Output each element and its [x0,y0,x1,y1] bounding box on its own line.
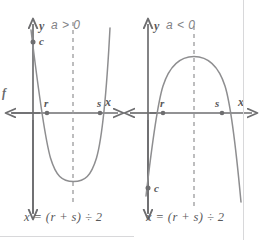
left-root-s-point [98,111,103,116]
right-axis-of-symmetry-equation: x = (r + s) ÷ 2 [146,211,224,224]
left-y-intercept-label: c [39,36,44,47]
right-condition-label: a < 0 [166,19,196,31]
left-y-intercept-point [31,40,36,45]
right-root-s-point [220,111,225,116]
left-root-r-label: r [44,98,48,109]
bottom-divider-left [0,236,134,237]
left-condition-label: a > 0 [51,19,81,31]
left-axis-of-symmetry-equation: x = (r + s) ÷ 2 [24,211,102,224]
right-root-r-point [161,111,166,116]
quadratic-graphs-figure: f y x a > 0 c r s x = (r + s) ÷ 2 y x a … [0,0,260,240]
left-x-axis-label: x [105,96,111,108]
right-y-axis-label: y [154,20,159,32]
left-root-r-point [45,111,50,116]
right-root-s-label: s [215,98,219,109]
left-y-axis-label: y [39,20,44,32]
left-panel-graph [11,22,118,214]
right-panel-graph [130,24,252,214]
right-edge-divider [243,0,244,240]
right-y-intercept-label: c [154,183,159,194]
left-root-s-label: s [97,98,101,109]
function-label-f: f [2,87,6,99]
right-y-intercept-point [146,186,151,191]
right-root-r-label: r [160,98,164,109]
